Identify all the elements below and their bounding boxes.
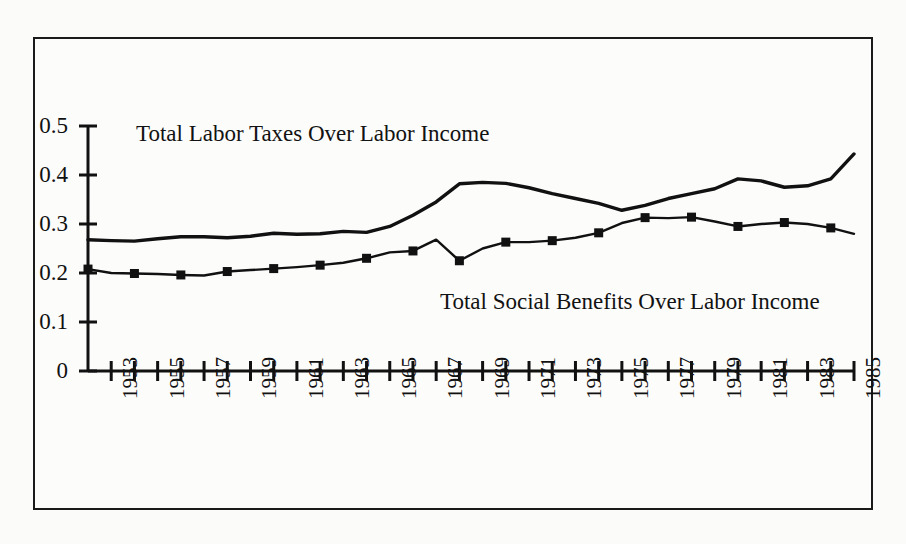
x-tick-label: 1959 — [259, 357, 280, 399]
x-tick-label: 1953 — [120, 357, 141, 399]
x-tick-label: 1977 — [677, 357, 698, 399]
series-group — [84, 154, 855, 280]
series-label-benefits: Total Social Benefits Over Labor Income — [440, 290, 820, 313]
series-label-taxes: Total Labor Taxes Over Labor Income — [136, 122, 489, 145]
y-tick-label: 0.1 — [10, 310, 68, 333]
series-marker-benefits — [733, 222, 742, 231]
series-marker-benefits — [780, 218, 789, 227]
series-marker-benefits — [548, 236, 557, 245]
series-marker-benefits — [269, 264, 278, 273]
x-tick-label: 1955 — [167, 357, 188, 399]
series-marker-benefits — [223, 267, 232, 276]
x-tick-label: 1985 — [863, 357, 884, 399]
x-tick-label: 1981 — [770, 357, 791, 399]
x-tick-label: 1965 — [399, 357, 420, 399]
x-tick-label: 1963 — [352, 357, 373, 399]
x-tick-label: 1967 — [445, 357, 466, 399]
x-tick-label: 1961 — [306, 357, 327, 399]
y-tick-label: 0.5 — [10, 114, 68, 137]
series-marker-benefits — [130, 269, 139, 278]
x-tick-label: 1969 — [492, 357, 513, 399]
series-marker-benefits — [408, 246, 417, 255]
series-marker-benefits — [455, 256, 464, 265]
series-marker-benefits — [84, 265, 93, 274]
series-marker-benefits — [176, 270, 185, 279]
x-tick-label: 1971 — [538, 357, 559, 399]
x-tick-label: 1975 — [631, 357, 652, 399]
y-tick-label: 0.3 — [10, 212, 68, 235]
series-marker-benefits — [362, 254, 371, 263]
series-marker-benefits — [826, 223, 835, 232]
series-marker-benefits — [501, 238, 510, 247]
chart-canvas — [0, 0, 906, 544]
x-tick-label: 1957 — [213, 357, 234, 399]
x-tick-label: 1979 — [724, 357, 745, 399]
figure-page: 0.50.40.30.20.10 19531955195719591961196… — [0, 0, 906, 544]
y-tick-label: 0.4 — [10, 163, 68, 186]
series-marker-benefits — [641, 213, 650, 222]
y-tick-label: 0.2 — [10, 261, 68, 284]
y-tick-label: 0 — [10, 359, 68, 382]
series-marker-benefits — [687, 213, 696, 222]
x-tick-label: 1983 — [817, 357, 838, 399]
series-marker-benefits — [594, 228, 603, 237]
series-marker-benefits — [316, 261, 325, 270]
x-tick-label: 1973 — [584, 357, 605, 399]
axis-group — [79, 125, 854, 381]
